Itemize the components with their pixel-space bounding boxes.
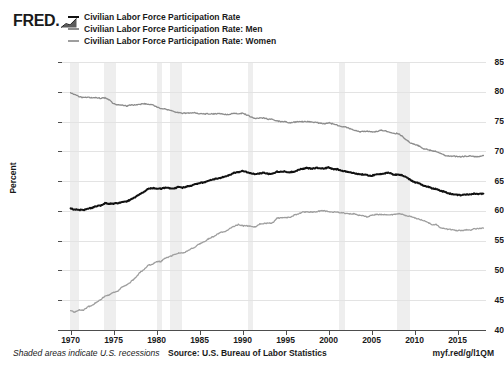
legend-swatch-icon-total xyxy=(68,16,79,18)
y-axis-title: Percent xyxy=(8,148,18,208)
x-tick-mark xyxy=(458,331,459,335)
x-axis-line xyxy=(62,330,486,331)
series-line xyxy=(71,211,484,313)
x-tick-mark xyxy=(243,331,244,335)
legend-item-total[interactable]: Civilian Labor Force Participation Rate xyxy=(68,11,368,23)
legend-label-total: Civilian Labor Force Participation Rate xyxy=(84,12,240,22)
x-tick-label: 1975 xyxy=(94,336,134,345)
x-tick-label: 2015 xyxy=(438,336,478,345)
legend-swatch-icon-men xyxy=(68,28,79,30)
series-lines xyxy=(62,62,486,330)
x-tick-mark xyxy=(415,331,416,335)
x-tick-label: 1980 xyxy=(137,336,177,345)
short-url-label[interactable]: myf.red/g/l1QM xyxy=(433,348,494,358)
x-tick-mark xyxy=(372,331,373,335)
fred-chart-container: FRED. Civilian Labor Force Participation… xyxy=(0,0,504,365)
series-line xyxy=(71,167,484,210)
x-tick-label: 1990 xyxy=(223,336,263,345)
x-tick-label: 1995 xyxy=(266,336,306,345)
y-tick-mark xyxy=(58,330,62,331)
x-tick-label: 1970 xyxy=(51,336,91,345)
legend-label-women: Civilian Labor Force Participation Rate:… xyxy=(84,36,276,46)
x-tick-mark xyxy=(157,331,158,335)
x-tick-label: 1985 xyxy=(180,336,220,345)
x-tick-mark xyxy=(114,331,115,335)
x-tick-label: 2000 xyxy=(309,336,349,345)
fred-logo-text: FRED. xyxy=(13,12,60,29)
legend-swatch-icon-women xyxy=(68,40,79,42)
legend-label-men: Civilian Labor Force Participation Rate:… xyxy=(84,24,263,34)
x-tick-mark xyxy=(286,331,287,335)
x-tick-label: 2010 xyxy=(395,336,435,345)
plot-area xyxy=(62,62,486,330)
series-line xyxy=(71,93,484,157)
chart-legend: Civilian Labor Force Participation Rate … xyxy=(68,11,368,47)
x-tick-label: 2005 xyxy=(352,336,392,345)
legend-item-men[interactable]: Civilian Labor Force Participation Rate:… xyxy=(68,23,368,35)
fred-logo: FRED. xyxy=(13,13,77,31)
recession-note: Shaded areas indicate U.S. recessions xyxy=(13,348,159,358)
data-source-label: Source: U.S. Bureau of Labor Statistics xyxy=(168,348,327,358)
legend-item-women[interactable]: Civilian Labor Force Participation Rate:… xyxy=(68,35,368,47)
x-tick-mark xyxy=(200,331,201,335)
x-tick-mark xyxy=(329,331,330,335)
x-tick-mark xyxy=(71,331,72,335)
